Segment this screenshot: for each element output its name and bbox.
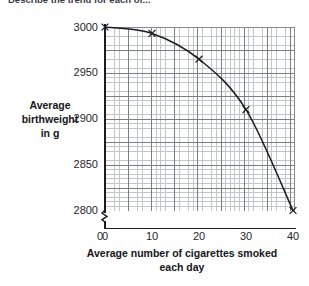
y-axis-break-icon bbox=[98, 209, 112, 223]
x-axis-title-line-2: each day bbox=[58, 260, 306, 274]
y-axis-title-line-1: Average bbox=[6, 99, 94, 113]
x-tick-label-20: 20 bbox=[184, 231, 214, 242]
plot-frame-right-border bbox=[294, 27, 295, 212]
y-tick-label-2850: 2850 bbox=[54, 159, 98, 170]
y-axis-title-line-3: in g bbox=[6, 127, 94, 141]
x-tick-label-30: 30 bbox=[231, 231, 261, 242]
x-axis-title-line-1: Average number of cigarettes smoked bbox=[58, 246, 306, 260]
y-axis-title: Average birthweight in g bbox=[6, 99, 94, 141]
y-axis-title-line-2: birthweight bbox=[6, 113, 94, 127]
y-tick-label-2800: 2800 bbox=[54, 205, 98, 216]
x-tick-label-40: 40 bbox=[278, 231, 308, 242]
plot-frame-top-border bbox=[105, 27, 295, 28]
y-axis-line bbox=[104, 24, 106, 213]
x-axis-line bbox=[104, 228, 296, 230]
x-axis-title: Average number of cigarettes smoked each… bbox=[58, 246, 306, 274]
y-tick-label-3000: 3000 bbox=[54, 22, 98, 33]
y-tick-label-2950: 2950 bbox=[54, 67, 98, 78]
x-tick-label-10: 10 bbox=[137, 231, 167, 242]
birthweight-vs-cigarettes-chart: 3000 2950 2900 2850 2800 0 0 10 20 30 40… bbox=[0, 0, 309, 286]
x-tick-label-0: 0 bbox=[90, 231, 120, 242]
plot-grid-area bbox=[105, 27, 295, 211]
